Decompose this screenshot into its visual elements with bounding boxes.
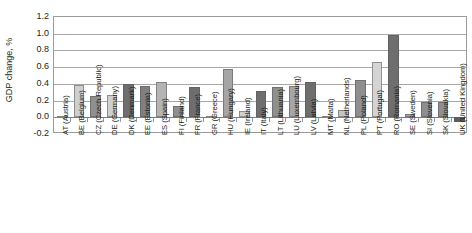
y-axis-title: GDP change, % xyxy=(2,0,16,140)
y-tick-label: 0.8 xyxy=(36,45,49,54)
y-tick-label: 0.4 xyxy=(36,78,49,87)
x-tick-label-text: EE (Estonia) xyxy=(144,92,152,135)
y-tick-label: 0.0 xyxy=(36,112,49,121)
y-axis-tick-labels: 1.21.00.80.60.40.20.0-0.2 xyxy=(16,14,51,139)
x-tick-label-text: ES (Spain) xyxy=(161,98,169,135)
x-tick-label-text: AT (Austria) xyxy=(62,95,70,135)
x-tick-label-text: MT (Malta) xyxy=(327,98,335,135)
x-tick-label-text: BE (Belgium) xyxy=(78,90,86,135)
x-tick-label-text: CZ (Czech Republic) xyxy=(95,65,103,135)
y-tick-label: 1.2 xyxy=(36,12,49,21)
y-axis-title-text: GDP change, % xyxy=(4,38,14,102)
x-tick-label: UK (United Kingdom) xyxy=(459,135,472,231)
x-tick-label-text: PL (Poland) xyxy=(360,95,368,135)
x-tick-label-text: DE (Germany) xyxy=(111,86,119,135)
x-tick-label-text: RO (Romania) xyxy=(393,86,401,135)
x-tick-label-text: NL (Netherlands) xyxy=(343,77,351,135)
y-tick-label: 0.2 xyxy=(36,95,49,104)
x-tick-label-text: SK (Slovakia) xyxy=(442,89,450,135)
x-tick-label-text: GR (Greece) xyxy=(211,92,219,135)
x-tick-label-text: HU (Hungary) xyxy=(227,88,235,135)
x-axis-tick-labels: AT (Austria)BE (Belgium)CZ (Czech Republ… xyxy=(53,135,467,233)
y-tick-label: 0.6 xyxy=(36,62,49,71)
x-tick-label-text: LU (Luxembourg) xyxy=(293,76,301,135)
x-tick-label-text: FR (France) xyxy=(194,94,202,135)
x-tick-label-text: UK (United Kingdom) xyxy=(459,63,467,135)
x-tick-label-text: LT (Lithuania) xyxy=(277,89,285,135)
y-tick-label: -0.2 xyxy=(33,129,49,138)
x-tick-label-text: DK (Denmark) xyxy=(128,86,136,135)
chart-figure: GDP change, % 1.21.00.80.60.40.20.0-0.2 … xyxy=(0,0,472,233)
x-tick-label-text: SI (Slovenia) xyxy=(426,92,434,135)
x-tick-label-text: FI (Finland) xyxy=(178,96,186,135)
x-tick-label-text: PT (Portugal) xyxy=(376,90,384,135)
x-tick-label-text: LV (Latvia) xyxy=(310,99,318,135)
x-tick-label-text: IE (Ireland) xyxy=(244,97,252,135)
y-tick-label: 1.0 xyxy=(36,28,49,37)
x-tick-label-text: IT (Italy) xyxy=(260,107,268,135)
x-tick-label-text: SE (Sweden) xyxy=(409,90,417,135)
